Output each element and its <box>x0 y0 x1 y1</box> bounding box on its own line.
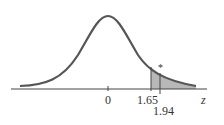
normal-curve <box>20 16 196 86</box>
tick-label-zero: 0 <box>105 94 111 106</box>
tick-label-statistic: 1.94 <box>153 105 174 117</box>
test-statistic-marker: * <box>158 63 163 73</box>
normal-curve-chart <box>0 0 224 125</box>
axis-label-z: z <box>201 94 206 106</box>
